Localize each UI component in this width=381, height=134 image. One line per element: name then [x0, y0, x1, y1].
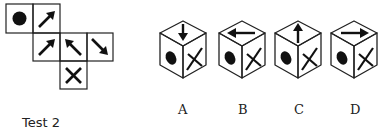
- option-label-d: D: [350, 102, 360, 117]
- arrow-down-right-icon: [92, 39, 108, 55]
- test-caption: Test 2: [22, 115, 60, 130]
- arrow-right-icon: [341, 28, 369, 38]
- arrow-up-right-icon: [39, 39, 55, 55]
- option-label-c: C: [294, 102, 304, 117]
- circle-icon: [279, 50, 294, 67]
- circle-icon: [164, 50, 179, 67]
- option-label-a: A: [178, 102, 187, 117]
- arrow-up-icon: [293, 23, 303, 43]
- circle-icon: [335, 50, 350, 67]
- arrow-left-icon: [227, 28, 255, 38]
- arrow-up-left-icon: [65, 39, 81, 55]
- circle-icon: [223, 50, 238, 67]
- cube-net: [0, 0, 130, 100]
- cross-icon: [187, 48, 202, 70]
- option-cube-a[interactable]: [156, 18, 210, 82]
- cross-icon: [246, 48, 261, 70]
- arrow-up-right-icon: [39, 11, 55, 27]
- option-cube-c[interactable]: [271, 18, 325, 82]
- option-cube-b[interactable]: [215, 18, 269, 82]
- arrow-down-icon: [178, 24, 188, 41]
- cross-icon: [302, 48, 317, 70]
- cross-icon: [358, 48, 373, 70]
- circle-icon: [13, 12, 27, 26]
- option-cube-d[interactable]: [327, 18, 381, 82]
- cross-icon: [66, 68, 81, 83]
- option-label-b: B: [238, 102, 248, 117]
